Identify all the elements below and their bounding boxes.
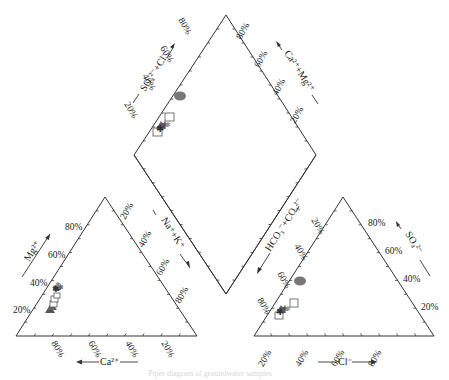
tick-label: 20% [118,201,135,221]
anion-bottom-ticks: 20% 40% 60% 80% [256,348,383,368]
star-marker: ✱ [165,121,171,129]
tick-label: 20% [256,348,273,368]
cation-right-ticks: 20% 40% 60% 80% [118,201,190,305]
tick-label: 60% [385,246,403,256]
tick-label: 40% [403,274,421,284]
tick-label: 80% [234,21,251,41]
tick-marks [25,29,425,336]
ellipse-marker [174,92,186,101]
arrow-head-icon [170,43,175,49]
tick-label: 40% [30,278,48,288]
camg-axis-label: Ca²⁺+Mg²⁺ [276,41,318,104]
diamond-markers: ✱ ✱ ✱ [153,92,186,137]
ca-axis-label: Ca²⁺ [76,356,138,367]
arrow-head-icon [76,360,82,365]
axis-label: Cl⁻ [338,356,352,367]
tick-label: 80% [176,16,193,36]
tick-label: 20% [421,302,439,312]
tick-label: 40% [293,348,310,368]
tick-label: 60% [48,250,66,260]
tick-label: 80% [368,218,386,228]
tick-label: 40% [292,242,309,262]
figure-caption: Piper diagram of groundwater samples [148,369,272,378]
arrow-head-icon [257,267,262,274]
square-marker [290,299,298,307]
tick-label: 60% [275,270,292,290]
piper-diagram: 20% 40% 60% 80% 20% 40% 60% 80% 80% 60% … [0,0,449,380]
star-marker: ✱ [285,305,291,313]
arrow-head-icon [276,41,281,47]
nak-axis-label: Na⁺+K⁺ [153,210,190,268]
tick-label: 80% [366,348,383,368]
axis-label: Ca²⁺ [100,356,119,367]
tick-label: 20% [309,216,326,236]
tick-label: 60% [154,257,171,277]
arrow-head-icon [45,234,50,240]
tick-label: 20% [159,339,176,359]
tick-label: 80% [65,222,83,232]
mg-axis-label: Mg²⁺ [21,234,50,277]
arrow-head-icon [186,261,190,268]
tick-label: 40% [123,339,140,359]
tick-label: 40% [136,229,153,249]
ellipse-marker [294,277,306,286]
tick-label: 60% [252,49,269,69]
tick-label: 20% [288,105,305,125]
tick-label: 20% [122,100,139,120]
axis-label: SO₄²⁻ [403,229,425,255]
axis-label: Na⁺+K⁺ [159,215,187,250]
tick-label: 80% [49,339,66,359]
star-marker: ✱ [55,281,61,289]
anion-right-ticks: 80% 60% 40% 20% [368,218,439,312]
tick-label: 80% [255,296,272,316]
tick-label: 20% [13,305,31,315]
axis-label: Ca²⁺+Mg²⁺ [282,48,317,93]
tick-label: 40% [270,77,287,97]
tick-label: 80% [173,285,190,305]
